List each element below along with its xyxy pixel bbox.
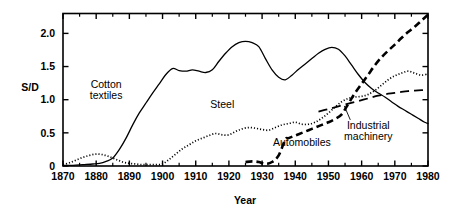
y-tick-label: 0	[49, 160, 55, 172]
x-tick-label: 1930	[250, 170, 274, 182]
x-tick-label: 1940	[284, 170, 308, 182]
annotation-label: Industrialmachinery	[344, 119, 393, 143]
y-tick-label: 1.5	[40, 60, 55, 72]
x-tick-label: 1910	[184, 170, 208, 182]
y-tick-label: 1.0	[40, 93, 55, 105]
x-tick-label: 1880	[85, 170, 109, 182]
annotation-label: Automobiles	[273, 136, 331, 148]
chart-figure: 1870188018901900191019201930194019501960…	[0, 0, 460, 212]
y-axis-title: S/D	[21, 81, 39, 93]
x-axis-title: Year	[234, 194, 256, 206]
x-tick-label: 1950	[317, 170, 341, 182]
annotation-label: Steel	[210, 98, 234, 110]
x-tick-label: 1970	[383, 170, 407, 182]
x-tick-label: 1960	[350, 170, 374, 182]
chart-svg: 1870188018901900191019201930194019501960…	[0, 0, 460, 212]
x-tick-label: 1900	[151, 170, 175, 182]
x-tick-label: 1980	[416, 170, 440, 182]
x-tick-label: 1890	[118, 170, 142, 182]
x-tick-label: 1920	[217, 170, 241, 182]
annotation-label: Cottontextiles	[90, 78, 123, 102]
y-tick-label: 2.0	[40, 27, 55, 39]
y-tick-label: 0.5	[40, 127, 55, 139]
